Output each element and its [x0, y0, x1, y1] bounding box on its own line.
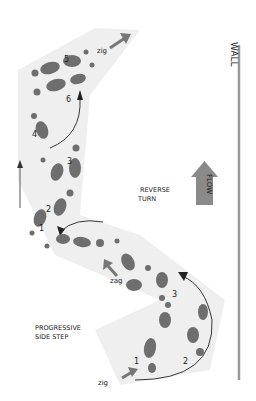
step-4-upper: 4 — [32, 130, 37, 139]
progressive-label-1: PROGRESSIVE — [35, 324, 81, 332]
step-1-upper: 1 — [39, 224, 44, 233]
dance-step-diagram: WALL FLOW REVERSE TURN PROGRESSIVE SIDE … — [0, 0, 256, 401]
step-2-upper: 2 — [46, 205, 51, 214]
step-3-upper: 3 — [67, 157, 72, 166]
reverse-turn-label-2: TURN — [137, 195, 156, 203]
wall-label: WALL — [229, 42, 239, 67]
zig-top-label: zig — [97, 47, 107, 55]
zig-bottom-label: zig — [98, 379, 108, 387]
step-6-upper: 6 — [66, 95, 71, 104]
flow-label: FLOW — [205, 174, 213, 194]
diagram-canvas: WALL FLOW REVERSE TURN PROGRESSIVE SIDE … — [0, 0, 256, 401]
step-5-upper: 5 — [64, 55, 69, 64]
reverse-turn-label-1: REVERSE — [140, 186, 170, 194]
progressive-label-2: SIDE STEP — [35, 333, 68, 341]
step-2-lower: 2 — [183, 357, 188, 366]
step-1-lower: 1 — [134, 357, 139, 366]
zag-label: zag — [110, 277, 122, 285]
step-3-lower: 3 — [172, 290, 177, 299]
